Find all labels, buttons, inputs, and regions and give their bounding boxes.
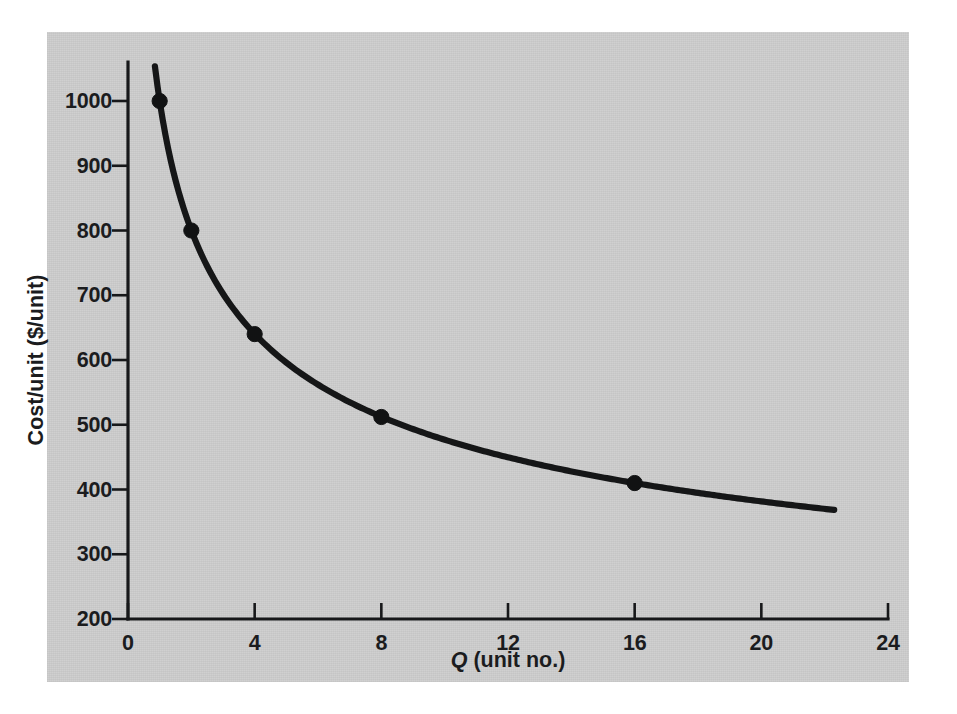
y-tick-label-900: 900 (40, 153, 112, 178)
y-tick-label-700: 700 (40, 283, 112, 308)
x-axis-title: Q (unit no.) (451, 648, 566, 673)
data-point-q4 (247, 327, 262, 342)
y-tick-label-500: 500 (40, 412, 112, 437)
data-point-q16 (627, 475, 642, 490)
data-point-q2 (184, 223, 199, 238)
x-tick-label-0: 0 (122, 631, 134, 656)
x-axis-title-variable: Q (451, 648, 468, 672)
x-axis-title-units: (unit no.) (467, 648, 565, 672)
y-tick-label-600: 600 (40, 348, 112, 373)
y-tick-label-1000: 1000 (40, 89, 112, 114)
y-tick-label-800: 800 (40, 218, 112, 243)
x-tick-label-16: 16 (623, 631, 647, 656)
x-tick-label-24: 24 (876, 631, 900, 656)
cost-curve (155, 66, 834, 510)
y-tick-label-400: 400 (40, 477, 112, 502)
y-tick-label-300: 300 (40, 542, 112, 567)
y-tick-label-200: 200 (40, 607, 112, 632)
x-tick-label-8: 8 (375, 631, 387, 656)
data-point-q8 (374, 409, 389, 424)
chart-plot-area (0, 0, 957, 714)
y-axis-title: Cost/unit ($/unit) (24, 275, 49, 446)
data-point-q1 (152, 93, 167, 108)
data-point-markers (152, 93, 642, 490)
y-axis-ticks (112, 101, 128, 619)
x-tick-label-4: 4 (249, 631, 261, 656)
x-tick-label-20: 20 (750, 631, 774, 656)
x-axis-ticks (128, 603, 888, 619)
